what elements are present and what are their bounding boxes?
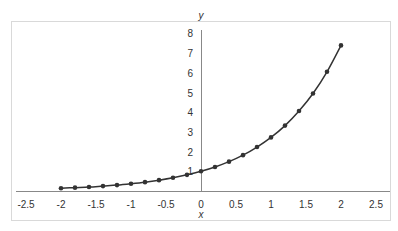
y-tick-label: 2 — [187, 147, 193, 158]
data-point-marker — [59, 186, 64, 191]
data-point-marker — [185, 173, 190, 178]
chart: -2.5-2-1.5-1-0.500.511.522.512345678 x y — [0, 0, 398, 231]
x-tick-label: 2.5 — [369, 199, 383, 210]
data-point-marker — [129, 181, 134, 186]
y-tick-label: 8 — [187, 28, 193, 39]
x-tick-label: -2.5 — [17, 199, 35, 210]
x-tick-label: 1.5 — [299, 199, 313, 210]
data-point-marker — [297, 109, 302, 114]
x-tick-label: 2 — [338, 199, 344, 210]
data-point-marker — [255, 145, 260, 150]
x-tick-label: 1 — [268, 199, 274, 210]
y-tick-label: 4 — [187, 107, 193, 118]
data-point-marker — [283, 123, 288, 128]
y-tick-label: 3 — [187, 127, 193, 138]
data-point-marker — [73, 185, 78, 190]
y-axis-label: y — [198, 10, 205, 21]
y-tick-label: 5 — [187, 88, 193, 99]
data-point-marker — [199, 169, 204, 174]
x-tick-label: -2 — [57, 199, 66, 210]
data-point-marker — [87, 185, 92, 190]
x-tick-label: -0.5 — [157, 199, 175, 210]
data-point-marker — [269, 135, 274, 140]
data-point-marker — [241, 153, 246, 158]
x-tick-label: 0.5 — [229, 199, 243, 210]
data-point-marker — [101, 184, 106, 189]
x-tick-label: -1 — [127, 199, 136, 210]
data-point-marker — [213, 165, 218, 170]
data-point-marker — [115, 183, 120, 188]
x-tick-label: -1.5 — [87, 199, 105, 210]
y-tick-label: 6 — [187, 68, 193, 79]
data-point-marker — [157, 178, 162, 183]
x-axis-label: x — [198, 209, 205, 220]
data-point-marker — [325, 70, 330, 75]
data-point-marker — [311, 91, 316, 96]
data-point-marker — [171, 176, 176, 181]
data-point-marker — [227, 159, 232, 164]
data-point-marker — [339, 43, 344, 48]
data-point-marker — [143, 180, 148, 185]
y-tick-label: 7 — [187, 48, 193, 59]
